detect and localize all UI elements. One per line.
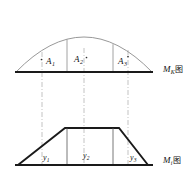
ordinate-label-y3: y3 — [129, 153, 137, 163]
parabola-arc — [16, 37, 152, 72]
area-label-a1: A1 — [45, 56, 55, 67]
area-label-a2: A2 — [73, 54, 83, 65]
ordinate-label-y1: y1 — [42, 153, 50, 163]
centroid-dot-a1 — [41, 59, 43, 61]
ordinate-label-y2: y2 — [82, 151, 90, 161]
area-label-a3: A3 — [117, 56, 127, 67]
lower-diagram-caption: Mi图 — [162, 155, 181, 166]
diagram-canvas: A1 A2 A3 y1 y2 y3 MK图 Mi图 — [0, 0, 195, 175]
upper-moment-diagram — [15, 37, 153, 72]
centroid-dot-a2 — [86, 57, 88, 59]
moment-diagram-figure: A1 A2 A3 y1 y2 y3 MK图 Mi图 — [0, 0, 195, 175]
centroid-dots-group — [41, 56, 129, 61]
centroid-dot-a3 — [127, 56, 129, 58]
upper-diagram-caption: MK图 — [162, 64, 183, 75]
